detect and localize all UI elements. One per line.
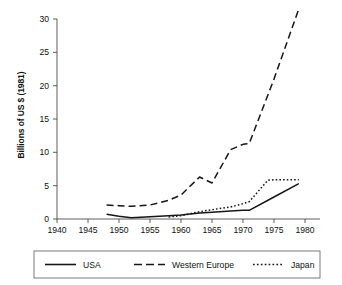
- y-axis: 0 5 10 15 20 25 30: [39, 14, 57, 224]
- x-tick-label-1970: 1970: [233, 225, 252, 235]
- y-tick-label-0: 0: [44, 214, 49, 224]
- y-axis-tick-labels: 0 5 10 15 20 25 30: [39, 14, 49, 224]
- y-tick-label-10: 10: [39, 147, 49, 157]
- series-line-western-europe: [107, 9, 299, 206]
- legend-label-western-europe: Western Europe: [172, 260, 234, 270]
- legend-label-japan: Japan: [291, 260, 315, 270]
- x-tick-label-1945: 1945: [78, 225, 97, 235]
- y-tick-label-25: 25: [39, 47, 49, 57]
- x-tick-label-1965: 1965: [202, 225, 221, 235]
- series-line-usa: [107, 184, 299, 218]
- x-axis-tick-labels: 1940 1945 1950 1955 1960 1965 1970 1975 …: [47, 225, 314, 235]
- x-tick-label-1960: 1960: [171, 225, 190, 235]
- series-group: [107, 9, 299, 218]
- y-tick-label-30: 30: [39, 14, 49, 24]
- x-axis-ticks: [57, 219, 305, 223]
- x-tick-label-1975: 1975: [264, 225, 283, 235]
- y-axis-ticks: [53, 19, 57, 219]
- x-tick-label-1955: 1955: [140, 225, 159, 235]
- x-axis: 1940 1945 1950 1955 1960 1965 1970 1975 …: [47, 219, 320, 235]
- x-tick-label-1980: 1980: [295, 225, 314, 235]
- x-tick-label-1940: 1940: [47, 225, 66, 235]
- y-tick-label-15: 15: [39, 114, 49, 124]
- chart-container: Billions of US $ (1981) 0 5 10 15 20 25: [0, 0, 342, 285]
- y-tick-label-20: 20: [39, 81, 49, 91]
- line-chart-svg: 0 5 10 15 20 25 30: [0, 0, 342, 285]
- x-tick-label-1950: 1950: [109, 225, 128, 235]
- y-tick-label-5: 5: [44, 181, 49, 191]
- legend-label-usa: USA: [83, 260, 101, 270]
- legend: USA Western Europe Japan: [34, 251, 320, 278]
